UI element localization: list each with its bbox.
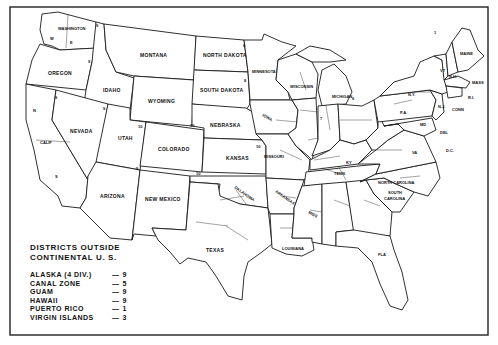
label-nebraska: NEBRASKA bbox=[210, 122, 241, 128]
label-washington: WASHINGTON bbox=[58, 26, 86, 31]
legend-row-canal-zone: CANAL ZONE— 5 bbox=[30, 280, 150, 289]
svg-text:10: 10 bbox=[138, 124, 143, 129]
svg-text:S: S bbox=[55, 174, 58, 179]
label-maine: MAINE bbox=[460, 51, 473, 56]
label-missouri: MISSOURI bbox=[264, 154, 284, 159]
label-wyoming: WYOMING bbox=[148, 98, 175, 104]
state-iowa bbox=[250, 100, 298, 134]
label-nevada: NEVADA bbox=[70, 128, 93, 134]
label-oregon: OREGON bbox=[48, 70, 72, 76]
legend-row-guam: GUAM— 9 bbox=[30, 288, 150, 297]
legend-row-puerto-rico: PUERTO RICO— 1 bbox=[30, 305, 150, 314]
legend-row-hawaii: HAWAII— 9 bbox=[30, 297, 150, 306]
label-wisconsin: WISCONSIN bbox=[290, 84, 313, 89]
label-michigan: MICHIGAN bbox=[332, 94, 352, 99]
state-florida bbox=[336, 230, 408, 310]
label-dc: D.C. bbox=[446, 148, 454, 153]
label-north-dakota: NORTH DAKOTA bbox=[203, 52, 247, 58]
state-maine bbox=[452, 28, 484, 72]
label-va: VA bbox=[412, 150, 417, 155]
legend-row-alaska: ALASKA (4 DIV.)— 9 bbox=[30, 271, 150, 280]
svg-text:10: 10 bbox=[196, 171, 201, 176]
legend-title-line2: CONTINENTAL U. S. bbox=[30, 253, 150, 263]
legend-title-line1: DISTRICTS OUTSIDE bbox=[30, 243, 150, 253]
state-oregon bbox=[26, 44, 96, 90]
label-calif: CALIF bbox=[40, 140, 52, 145]
label-ky: KY bbox=[346, 160, 352, 165]
svg-text:10: 10 bbox=[190, 123, 195, 128]
label-washington-e: E bbox=[70, 40, 73, 45]
state-michigan bbox=[318, 64, 352, 106]
label-kansas: KANSAS bbox=[226, 155, 249, 161]
label-md: MD bbox=[420, 122, 426, 127]
label-ny: N.Y. bbox=[408, 92, 415, 97]
label-minnesota: MINNESOTA bbox=[252, 69, 276, 74]
label-fla: FLA bbox=[378, 252, 386, 257]
label-texas: TEXAS bbox=[206, 247, 225, 253]
svg-text:10: 10 bbox=[256, 144, 261, 149]
svg-text:N: N bbox=[33, 108, 36, 113]
label-pa: P.A. bbox=[400, 110, 407, 115]
legend-row-virgin-islands: VIRGIN ISLANDS— 3 bbox=[30, 314, 150, 323]
state-arizona bbox=[80, 162, 140, 240]
label-north-carolina: NORTH CAROLINA bbox=[378, 180, 415, 185]
svg-text:6: 6 bbox=[352, 96, 355, 101]
label-nj: N.J. bbox=[438, 104, 445, 109]
label-tenn: TENN bbox=[334, 171, 345, 176]
label-vt: VT bbox=[440, 68, 446, 73]
label-south-carolina-1: SOUTH bbox=[388, 190, 402, 195]
label-mass: MASS bbox=[472, 80, 484, 85]
svg-text:1: 1 bbox=[434, 30, 437, 35]
state-new-york bbox=[380, 56, 448, 96]
label-arizona: ARIZONA bbox=[100, 193, 125, 199]
label-colorado: COLORADO bbox=[158, 146, 190, 152]
label-utah: UTAH bbox=[118, 135, 133, 141]
label-south-dakota: SOUTH DAKOTA bbox=[200, 87, 244, 93]
label-del: DEL bbox=[440, 130, 449, 135]
legend-districts-outside: DISTRICTS OUTSIDE CONTINENTAL U. S. ALAS… bbox=[30, 243, 150, 322]
label-nh: N.H. bbox=[449, 74, 457, 79]
legend-rows: ALASKA (4 DIV.)— 9 CANAL ZONE— 5 GUAM— 9… bbox=[30, 271, 150, 322]
label-washington-w: W bbox=[50, 36, 54, 41]
label-conn: CONN bbox=[452, 107, 464, 112]
label-idaho: IDAHO bbox=[103, 87, 121, 93]
label-ri: R.I. bbox=[468, 95, 474, 100]
label-south-carolina-2: CAROLINA bbox=[384, 196, 405, 201]
label-montana: MONTANA bbox=[140, 52, 167, 58]
label-louisiana: LOUISIANA bbox=[282, 246, 304, 251]
state-connecticut bbox=[446, 86, 462, 98]
label-new-mexico: NEW MEXICO bbox=[145, 196, 181, 202]
